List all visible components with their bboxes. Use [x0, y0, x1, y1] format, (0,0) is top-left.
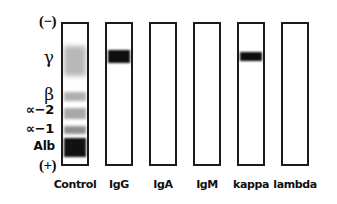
- axis-label-alpha-1: ∝−1: [26, 122, 54, 135]
- band-alpha-1-control: [64, 126, 86, 134]
- axis-label-negative-pole: (−): [39, 14, 56, 29]
- axis-label-positive-pole: (+): [39, 158, 56, 173]
- axis-label-alpha-2: ∝−2: [26, 103, 54, 116]
- gel-lane-igg[interactable]: [105, 22, 133, 166]
- gel-lane-track-igg: [107, 24, 131, 164]
- gel-lane-lambda[interactable]: [281, 22, 309, 166]
- band-monoclonal-kappa-kappa: [240, 52, 262, 61]
- band-gamma-control: [64, 46, 86, 76]
- gel-lane-track-iga: [151, 24, 175, 164]
- gel-lane-track-lambda: [283, 24, 307, 164]
- gel-lane-iga[interactable]: [149, 22, 177, 166]
- gel-lane-kappa[interactable]: [237, 22, 265, 166]
- band-alpha-2-control: [64, 108, 86, 119]
- gel-figure: (−) γ β ∝−2 ∝−1 Alb (+) ControlIgGIgAIgM…: [0, 0, 337, 204]
- band-monoclonal-igg-igg: [108, 50, 130, 63]
- gel-lane-igm[interactable]: [193, 22, 221, 166]
- axis-label-gamma: γ: [44, 49, 54, 66]
- gel-lane-track-kappa: [239, 24, 263, 164]
- axis-label-beta: β: [44, 86, 54, 103]
- gel-lane-control[interactable]: [61, 22, 89, 166]
- gel-lane-track-control: [63, 24, 87, 164]
- lane-title-lambda: lambda: [265, 178, 325, 191]
- axis-label-albumin: Alb: [34, 140, 55, 152]
- band-beta-control: [64, 92, 86, 101]
- band-albumin-control: [64, 138, 86, 157]
- gel-lane-track-igm: [195, 24, 219, 164]
